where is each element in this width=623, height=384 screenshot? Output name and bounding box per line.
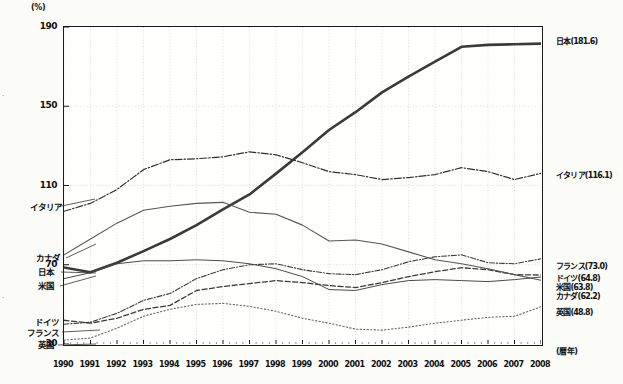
x-axis-tick-label: 2007 xyxy=(500,360,528,369)
chart-canvas xyxy=(64,27,541,344)
series-left-label-米国: 米国 xyxy=(38,282,54,291)
series-line-ドイツ xyxy=(64,268,541,323)
page-edge-mark-2: · xyxy=(2,294,4,302)
x-axis-tick-label: 1990 xyxy=(49,360,77,369)
x-axis-tick-label: 1996 xyxy=(208,360,236,369)
x-axis-tick-label: 1999 xyxy=(288,360,316,369)
x-axis-tick-label: 2001 xyxy=(341,360,369,369)
series-right-label-英国: 英国(48.8) xyxy=(556,309,593,317)
series-left-label-日本: 日本 xyxy=(38,268,54,277)
series-left-label-イタリア: イタリア xyxy=(30,203,62,212)
plot-area xyxy=(63,26,543,346)
y-axis-tick-label: 190 xyxy=(31,21,57,31)
top-edge-artifact xyxy=(0,0,623,8)
series-right-label-フランス: フランス(73.0) xyxy=(556,263,607,271)
series-left-label-ドイツ: ドイツ xyxy=(35,318,59,327)
y-axis-tick-label: 110 xyxy=(31,180,57,190)
x-axis-tick-label: 2008 xyxy=(526,360,554,369)
page-edge-mark: · xyxy=(2,92,4,100)
x-axis-unit: (暦年) xyxy=(556,345,577,356)
x-axis-tick-label: 2002 xyxy=(367,360,395,369)
x-axis-tick-label: 2004 xyxy=(420,360,448,369)
x-axis-tick-label: 1993 xyxy=(129,360,157,369)
x-axis-tick-label: 2005 xyxy=(447,360,475,369)
y-axis-tick-label: 150 xyxy=(31,100,57,110)
series-right-label-日本: 日本(181.6) xyxy=(556,38,597,46)
series-right-label-カナダ: カナダ(62.2) xyxy=(556,293,600,301)
series-right-label-ドイツ: ドイツ(64.8) xyxy=(556,275,600,283)
series-left-label-フランス: フランス xyxy=(27,329,59,338)
x-axis-tick-label: 1994 xyxy=(155,360,183,369)
x-axis-tick-label: 2003 xyxy=(394,360,422,369)
x-axis-tick-label: 2000 xyxy=(314,360,342,369)
y-axis-unit: (%) xyxy=(31,3,45,12)
series-line-日本 xyxy=(64,44,541,273)
x-axis-tick-label: 1998 xyxy=(261,360,289,369)
x-axis-tick-label: 1991 xyxy=(76,360,104,369)
x-axis-tick-label: 2006 xyxy=(473,360,501,369)
series-right-label-米国: 米国(63.8) xyxy=(556,284,593,292)
chart-root: (%) 3070110150190 1990199119921993199419… xyxy=(0,0,623,384)
series-left-label-カナダ: カナダ xyxy=(36,254,60,263)
series-left-label-英国: 英国 xyxy=(38,341,54,350)
x-axis-tick-label: 1997 xyxy=(235,360,263,369)
x-axis-tick-label: 1992 xyxy=(102,360,130,369)
x-axis-tick-label: 1995 xyxy=(182,360,210,369)
series-right-label-イタリア: イタリア(116.1) xyxy=(556,172,612,180)
